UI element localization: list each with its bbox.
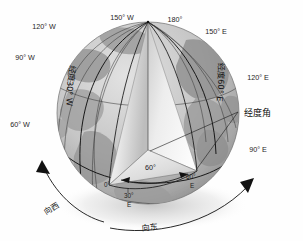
label-150e: 150° E — [205, 27, 227, 36]
label-60w: 60° W — [10, 120, 30, 129]
longitude-angle-label: 经度角 — [244, 107, 271, 118]
earth-sphere — [48, 21, 244, 214]
label-180: 180° — [168, 15, 183, 24]
label-90e: 90° E — [249, 145, 267, 154]
diagram-canvas: 60° 经度角 经度30° W 经度60° E 120° W 150° W 18… — [0, 0, 303, 241]
label-meridian-60e-text: 经度60° E — [215, 62, 227, 102]
angle-value-label: 60° — [145, 163, 156, 172]
label-120e: 120° E — [247, 73, 269, 82]
label-60e-unit: E — [190, 182, 194, 189]
label-30e: 30° — [124, 192, 134, 199]
label-meridian-60e: 经度60° E — [215, 62, 227, 102]
label-90w: 90° W — [15, 53, 35, 62]
eastward-label: 向东 — [141, 221, 158, 233]
label-150w: 150° W — [110, 13, 134, 22]
label-120w: 120° W — [32, 22, 56, 31]
north-pole-point — [147, 21, 149, 23]
label-0deg: 0° — [104, 181, 111, 188]
globe-longitude-diagram: 60° 经度角 经度30° W 经度60° E 120° W 150° W 18… — [0, 0, 303, 241]
westward-arrowhead — [36, 160, 50, 174]
eastward-arrowhead — [240, 178, 254, 193]
label-30e-unit: E — [127, 201, 131, 208]
label-60e: 60° — [186, 173, 196, 180]
